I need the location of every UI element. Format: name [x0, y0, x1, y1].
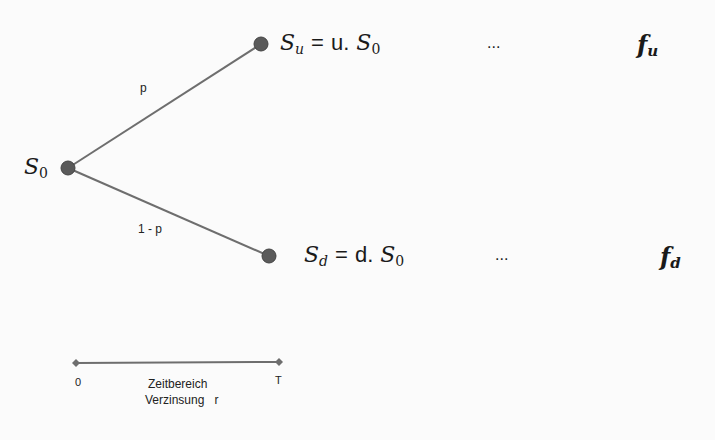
timeline-end-label: T	[275, 374, 282, 386]
tree-graphic	[0, 0, 715, 440]
root-label-base: S	[24, 154, 39, 179]
timeline-start-marker	[72, 359, 80, 367]
up-node-formula: Su = u. S0	[280, 30, 380, 57]
up-probability: p	[140, 81, 147, 95]
up-eq: =	[311, 30, 324, 55]
down-probability: 1 - p	[138, 222, 162, 236]
up-node	[254, 37, 268, 51]
up-rhs-base: S	[356, 30, 371, 55]
timeline-start-label: 0	[75, 376, 81, 388]
root-label: S0	[24, 154, 48, 181]
root-node	[61, 161, 75, 175]
down-payoff: fd	[660, 242, 681, 272]
up-ellipsis: ...	[487, 34, 500, 52]
up-label-sub: u	[295, 41, 304, 57]
down-label-sub: d	[319, 253, 328, 269]
down-label-base: S	[304, 242, 319, 267]
up-label-base: S	[280, 30, 295, 55]
down-factor: d.	[355, 242, 373, 267]
down-ellipsis: ...	[495, 246, 508, 264]
timeline-label-zeitbereich: Zeitbereich	[148, 377, 207, 391]
timeline-label-verzinsung: Verzinsung r	[145, 393, 218, 407]
down-rhs-sub: 0	[395, 253, 404, 269]
up-payoff: fu	[637, 30, 658, 60]
down-node-formula: Sd = d. S0	[304, 242, 404, 269]
up-payoff-base: f	[637, 30, 647, 59]
up-payoff-sub: u	[647, 42, 658, 60]
down-payoff-base: f	[660, 242, 670, 271]
down-rhs-base: S	[380, 242, 395, 267]
up-rhs-sub: 0	[371, 41, 380, 57]
down-node	[262, 249, 276, 263]
down-eq: =	[335, 242, 348, 267]
up-branch-line	[68, 44, 261, 168]
root-label-sub: 0	[39, 165, 48, 181]
down-branch-line	[68, 168, 269, 256]
down-payoff-sub: d	[670, 254, 681, 272]
up-factor: u.	[331, 30, 349, 55]
timeline-end-marker	[275, 358, 283, 366]
timeline-line	[76, 362, 279, 363]
